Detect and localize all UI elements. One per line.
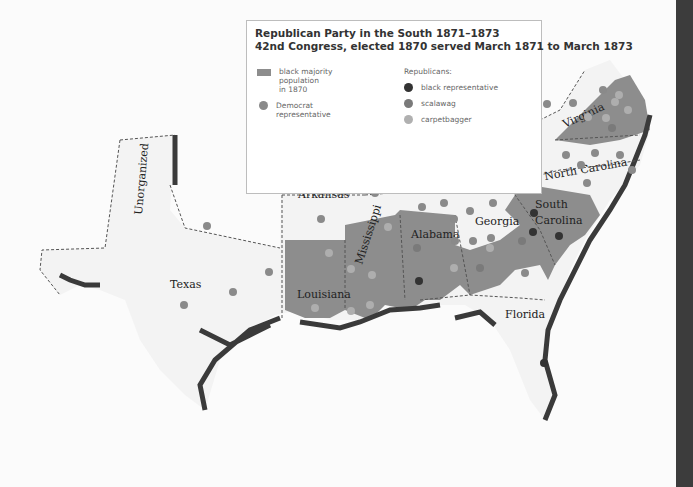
scalawag-dot-icon — [404, 99, 413, 108]
carpetbagger-label: carpetbagger — [421, 115, 472, 124]
scalawag-label: scalawag — [421, 99, 456, 108]
black-majority-swatch — [257, 69, 271, 76]
legend-item-carpetbagger: carpetbagger — [402, 115, 498, 124]
map-legend: Republican Party in the South 1871–1873 … — [246, 20, 542, 194]
legend-item-democrat: Democrat representative — [257, 101, 332, 119]
legend-right-column: Republicans: black representative scalaw… — [402, 67, 498, 131]
label-georgia: Georgia — [475, 215, 520, 228]
legend-item-black-representative: black representative — [402, 83, 498, 92]
black-representative-label: black representative — [421, 83, 498, 92]
label-south-carolina-1: South — [535, 198, 568, 211]
legend-title: Republican Party in the South 1871–1873 — [255, 27, 533, 40]
carpetbagger-dot-icon — [404, 115, 413, 124]
label-texas: Texas — [170, 278, 202, 291]
label-south-carolina-2: Carolina — [535, 214, 583, 227]
republicans-heading: Republicans: — [404, 67, 498, 76]
legend-item-scalawag: scalawag — [402, 99, 498, 108]
legend-subtitle: 42nd Congress, elected 1870 served March… — [255, 40, 533, 53]
label-louisiana: Louisiana — [297, 288, 351, 301]
black-majority-label: black majority population in 1870 — [279, 67, 332, 94]
democrat-label: Democrat representative — [276, 101, 331, 119]
label-florida: Florida — [505, 308, 546, 321]
legend-left-column: black majority population in 1870 Democr… — [257, 67, 332, 126]
legend-item-black-majority: black majority population in 1870 — [257, 67, 332, 94]
black-representative-dot-icon — [404, 83, 413, 92]
democrat-dot-icon — [259, 101, 268, 110]
